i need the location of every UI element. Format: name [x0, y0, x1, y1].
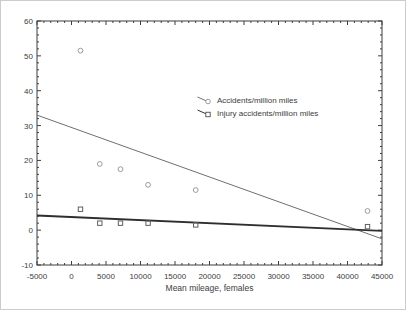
- svg-text:35000: 35000: [302, 272, 325, 281]
- legend-label-injury-accidents: Injury accidents/million miles: [217, 109, 318, 118]
- svg-text:30000: 30000: [267, 272, 290, 281]
- svg-text:0: 0: [69, 272, 74, 281]
- svg-text:40: 40: [24, 87, 33, 96]
- square-marker-icon: [197, 108, 213, 119]
- legend-item-injury-accidents: Injury accidents/million miles: [197, 108, 318, 119]
- svg-text:20: 20: [24, 156, 33, 165]
- svg-text:60: 60: [24, 17, 33, 26]
- x-axis-title: Mean mileage, females: [37, 283, 382, 293]
- svg-text:40000: 40000: [336, 272, 359, 281]
- svg-text:45000: 45000: [371, 272, 394, 281]
- svg-text:10: 10: [24, 191, 33, 200]
- svg-text:25000: 25000: [233, 272, 256, 281]
- circle-marker-icon: [197, 95, 213, 106]
- svg-text:5000: 5000: [97, 272, 115, 281]
- svg-text:50: 50: [24, 52, 33, 61]
- svg-text:30: 30: [24, 122, 33, 131]
- chart-legend: Accidents/million miles Injury accidents…: [197, 95, 318, 119]
- svg-text:10000: 10000: [129, 272, 152, 281]
- legend-item-accidents: Accidents/million miles: [197, 95, 318, 106]
- accident-rate-scatter-plot: -500005000100001500020000250003000035000…: [0, 0, 406, 310]
- legend-label-accidents: Accidents/million miles: [217, 96, 297, 105]
- svg-text:0: 0: [29, 226, 34, 235]
- svg-text:-10: -10: [21, 261, 33, 270]
- svg-text:-5000: -5000: [27, 272, 48, 281]
- svg-text:15000: 15000: [164, 272, 187, 281]
- chart-canvas: -500005000100001500020000250003000035000…: [1, 1, 406, 310]
- svg-text:20000: 20000: [198, 272, 221, 281]
